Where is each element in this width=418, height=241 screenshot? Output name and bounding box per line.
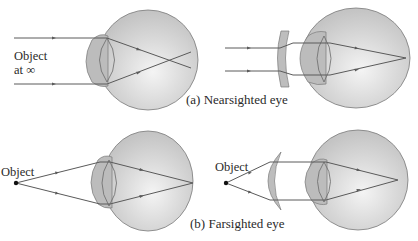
eyeball-icon bbox=[91, 131, 193, 231]
object-label-line2: at ∞ bbox=[14, 63, 47, 77]
object-at-infinity-label: Object at ∞ bbox=[14, 49, 47, 77]
caption-farsighted: (b) Farsighted eye bbox=[190, 216, 285, 232]
caption-nearsighted: (a) Nearsighted eye bbox=[186, 92, 288, 108]
farsighted-eye-corrected bbox=[224, 130, 408, 230]
object-point-icon bbox=[224, 181, 228, 185]
object-label-farsighted-right: Object bbox=[215, 160, 248, 174]
eyeball-icon bbox=[300, 8, 410, 108]
ray-arrow-icon bbox=[52, 83, 56, 86]
convex-lens-icon bbox=[268, 152, 281, 210]
concave-lens-icon bbox=[278, 31, 290, 87]
ray-arrow-icon bbox=[52, 37, 56, 40]
eyeball-icon bbox=[86, 10, 198, 110]
object-label-farsighted-left: Object bbox=[1, 165, 34, 179]
ray-arrow-icon bbox=[247, 47, 251, 50]
ray-arrow-icon bbox=[247, 70, 251, 73]
object-point-icon bbox=[14, 181, 18, 185]
farsighted-eye-uncorrected bbox=[14, 131, 193, 231]
object-label-line1: Object bbox=[14, 49, 47, 63]
eye-correction-diagram: Object at ∞ (a) Nearsighted eye Object O… bbox=[0, 0, 418, 241]
eyeball-icon bbox=[305, 130, 408, 230]
